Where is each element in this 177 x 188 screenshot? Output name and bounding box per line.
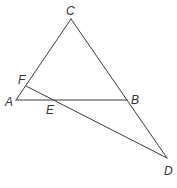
label-E: E bbox=[46, 103, 55, 117]
label-F: F bbox=[18, 73, 26, 87]
label-B: B bbox=[131, 93, 139, 107]
segment-CD bbox=[71, 19, 167, 158]
segment-CA bbox=[16, 19, 71, 100]
geometry-diagram: C F A E B D bbox=[0, 0, 177, 188]
label-D: D bbox=[164, 164, 173, 178]
segment-FD bbox=[26, 86, 167, 158]
label-C: C bbox=[66, 4, 75, 18]
label-A: A bbox=[4, 95, 13, 109]
